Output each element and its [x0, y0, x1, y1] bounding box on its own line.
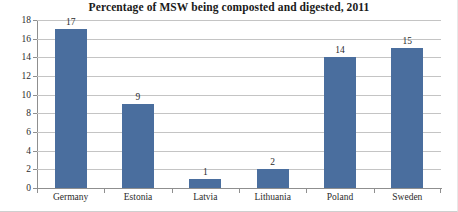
- bar[interactable]: [391, 48, 423, 188]
- x-axis-category-label: Sweden: [392, 192, 422, 202]
- bar-slot: 14: [306, 20, 373, 188]
- plot-area: 179121415: [37, 20, 441, 188]
- bar-value-label: 9: [136, 92, 141, 102]
- bar-slot: 17: [37, 20, 104, 188]
- bar[interactable]: [324, 57, 356, 188]
- bar[interactable]: [122, 104, 154, 188]
- x-axis-category-labels: GermanyEstoniaLatviaLithuaniaPolandSwede…: [37, 192, 441, 208]
- bar[interactable]: [257, 169, 289, 188]
- bar-slot: 15: [374, 20, 441, 188]
- x-axis-category-label: Germany: [53, 192, 88, 202]
- x-axis-category-label: Latvia: [193, 192, 217, 202]
- x-axis-category-label: Poland: [327, 192, 353, 202]
- bar[interactable]: [55, 29, 87, 188]
- x-axis-category-label: Lithuania: [254, 192, 290, 202]
- bar-chart-figure: Percentage of MSW being composted and di…: [0, 0, 458, 212]
- bar[interactable]: [189, 179, 221, 188]
- x-axis-category-label: Estonia: [124, 192, 153, 202]
- y-axis-tick-marks: [0, 20, 40, 189]
- bar-value-label: 15: [403, 36, 413, 46]
- bar-value-label: 2: [270, 157, 275, 167]
- bar-value-label: 1: [203, 167, 208, 177]
- bar-slot: 2: [239, 20, 306, 188]
- bar-value-label: 14: [335, 45, 345, 55]
- chart-title: Percentage of MSW being composted and di…: [0, 1, 458, 13]
- bar-value-label: 17: [66, 17, 76, 27]
- bar-slot: 1: [172, 20, 239, 188]
- bar-slot: 9: [104, 20, 171, 188]
